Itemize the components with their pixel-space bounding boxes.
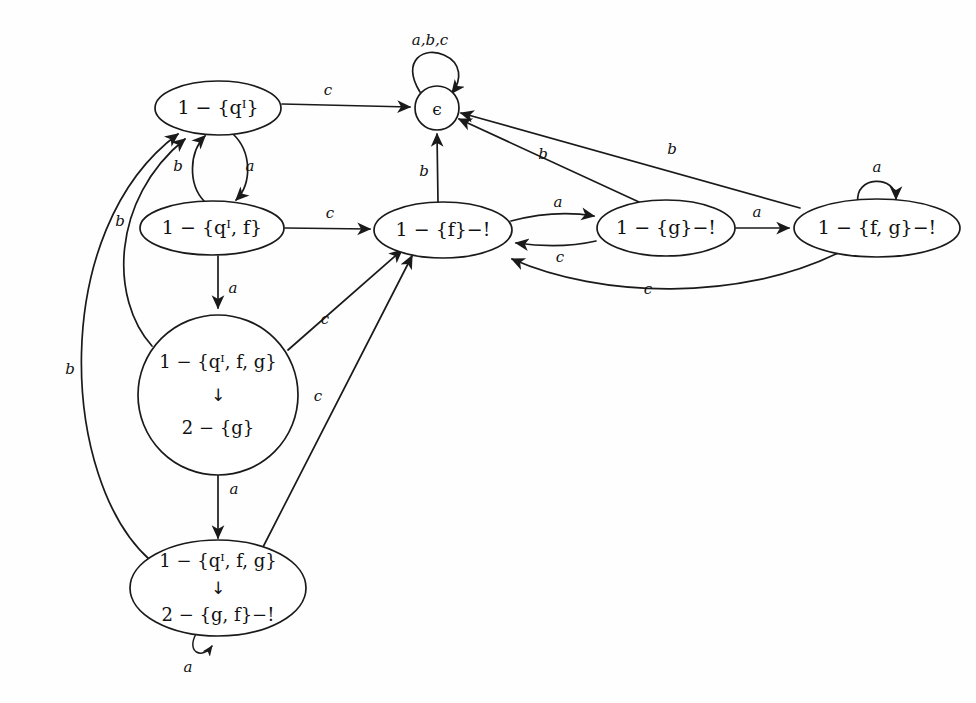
edge-label-a: a (753, 203, 762, 221)
state-q-init-f-g-to-g[interactable]: 1 − {qᴵ, f, g} ↓ 2 − {g} (138, 315, 298, 475)
state-fg-bang[interactable]: 1 − {f, g}−! (794, 199, 960, 257)
state-q-init-f[interactable]: 1 − {qᴵ, f} (140, 201, 284, 255)
transition-q_init_f_g_to_gf_bang-self-loop: a (184, 634, 212, 676)
state-g-bang[interactable]: 1 − {g}−! (597, 200, 735, 256)
automaton-svg: c a,b,c a b c b a (0, 0, 976, 703)
edge-label-c: c (314, 387, 323, 405)
state-q-init[interactable]: 1 − {qᴵ} (155, 81, 281, 135)
edge-label-b: b (419, 162, 429, 180)
state-f-bang[interactable]: 1 − {f}−! (374, 202, 512, 258)
edge-label-a: a (873, 158, 882, 176)
state-label: ϵ (432, 99, 442, 119)
state-label-line1: 1 − {qᴵ, f, g} (159, 550, 276, 571)
edge-label-b: b (65, 360, 75, 378)
state-epsilon[interactable]: ϵ (415, 86, 459, 130)
edge-label-c: c (644, 280, 653, 298)
transition-q_init-to-q_init_f: a (233, 134, 254, 200)
state-label: 1 − {f}−! (396, 218, 491, 240)
state-label: 1 − {qᴵ} (177, 96, 258, 118)
state-label-line2: 2 − {g, f}−! (162, 604, 275, 625)
transition-f_bang-to-g_bang: a (511, 193, 594, 221)
edge-label-b: b (667, 140, 677, 158)
transition-q_init-to-epsilon: c (282, 81, 410, 107)
edge-label-b: b (173, 157, 183, 175)
transition-q_init_f_g_to_g-to-f_bang: c (288, 250, 402, 350)
transition-g_bang-to-fg_bang: a (736, 203, 789, 228)
state-label-line2: 2 − {g} (182, 417, 254, 438)
state-label-down-arrow: ↓ (211, 385, 225, 405)
transition-q_init_f-to-f_bang: c (285, 204, 370, 229)
edge-label-a: a (246, 157, 255, 175)
transition-q_init_f-to-q_init_f_g_to_g: a (218, 256, 237, 308)
transition-fg_bang-self-loop: a (858, 158, 896, 202)
state-label: 1 − {g}−! (616, 216, 716, 238)
state-label: 1 − {f, g}−! (818, 216, 936, 238)
edge-label-a: a (184, 658, 193, 676)
transition-fg_bang-to-epsilon: b (461, 113, 800, 208)
edge-label-a: a (229, 279, 238, 297)
transition-g_bang-to-f_bang: c (516, 241, 596, 266)
edge-label-abc: a,b,c (412, 31, 449, 49)
edge-label-b: b (538, 145, 548, 163)
edge-label-c: c (321, 310, 330, 328)
state-label-down-arrow: ↓ (211, 578, 225, 598)
edge-label-a: a (230, 480, 239, 498)
edge-label-c: c (324, 81, 333, 99)
edge-label-c: c (326, 204, 335, 222)
transition-f_bang-to-epsilon: b (419, 134, 438, 202)
transition-epsilon-self-loop: a,b,c (412, 31, 459, 93)
edge-label-b: b (115, 212, 125, 230)
transition-g_bang-to-epsilon: b (459, 119, 639, 202)
transition-q_init_f_g_to_g-to-q_init_f_g_to_gf_bang: a (218, 475, 238, 538)
state-label-line1: 1 − {qᴵ, f, g} (159, 351, 276, 372)
state-label: 1 − {qᴵ, f} (162, 216, 262, 238)
edge-label-a: a (554, 193, 563, 211)
state-q-init-f-g-to-gf-bang[interactable]: 1 − {qᴵ, f, g} ↓ 2 − {g, f}−! (130, 540, 306, 636)
diagram-canvas: c a,b,c a b c b a (0, 0, 976, 703)
edge-label-c: c (556, 248, 565, 266)
